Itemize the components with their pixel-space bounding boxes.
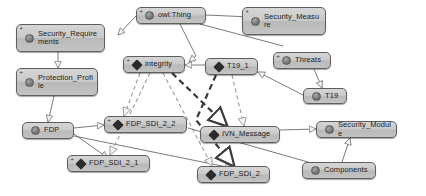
node-label: Components: [324, 166, 368, 175]
individual-diamond-icon: [209, 130, 218, 139]
node-label: IVN_Message: [222, 130, 270, 139]
node-fdp-sdi-2-2[interactable]: + FDP_SDI_2_2: [104, 116, 187, 133]
node-t19-1[interactable]: T19_1: [205, 58, 258, 75]
edge-components-to-securitymodule: [342, 138, 350, 162]
class-circle-icon: [251, 17, 260, 26]
class-circle-icon: [312, 92, 321, 101]
node-label: integrity: [145, 60, 172, 69]
class-circle-icon: [282, 56, 291, 65]
expander-icon[interactable]: +: [126, 58, 130, 63]
node-fdp[interactable]: FDP: [22, 122, 74, 139]
node-security-module[interactable]: Security_Module: [316, 121, 397, 138]
class-circle-icon: [31, 126, 40, 135]
node-label: T19: [325, 92, 338, 101]
node-label: FDP_SDI_2_1: [89, 159, 138, 168]
expander-icon[interactable]: +: [19, 26, 23, 31]
node-fdp-sdi-2-1[interactable]: + FDP_SDI_2_1: [67, 155, 150, 172]
node-label: Security_Requirements: [38, 30, 100, 47]
expander-icon[interactable]: +: [245, 9, 249, 14]
node-components[interactable]: Components: [302, 162, 376, 179]
node-protection-profile[interactable]: + Protection_Profile: [16, 68, 98, 96]
edge-t191-to-fdpsdi2: [196, 75, 234, 166]
node-label: FDP_SDI_2_2: [126, 120, 175, 129]
edge-ivnmessage-to-securitymodule: [280, 129, 316, 130]
class-circle-icon: [311, 166, 320, 175]
node-label: Security_Measure: [264, 13, 321, 30]
expander-icon[interactable]: +: [276, 54, 280, 59]
node-fdp-sdi-2[interactable]: FDP_SDI_2: [197, 166, 270, 183]
class-circle-icon: [145, 11, 154, 20]
node-security-measure[interactable]: + Security_Measure: [242, 7, 326, 35]
node-label: FDP: [44, 126, 59, 135]
node-label: T19_1: [227, 62, 249, 71]
class-circle-icon: [325, 125, 334, 134]
class-circle-icon: [25, 34, 34, 43]
edge-threats-to-t19: [314, 69, 322, 88]
node-owl-thing[interactable]: + owl:Thing: [136, 7, 206, 24]
node-security-requirements[interactable]: + Security_Requirements: [16, 24, 105, 52]
expander-icon[interactable]: +: [107, 118, 111, 123]
node-label: FDP_SDI_2: [219, 170, 260, 179]
individual-diamond-icon: [132, 60, 141, 69]
node-integrity[interactable]: + integrity: [123, 56, 185, 73]
edge-integrity-to-fdpsdi21: [110, 73, 150, 155]
individual-diamond-icon: [206, 170, 215, 179]
edge-owlthing-to-securityrequirements: [118, 16, 136, 35]
expander-icon[interactable]: +: [70, 157, 74, 162]
node-label: owl:Thing: [158, 11, 191, 20]
edge-t19-to-t191: [258, 72, 303, 95]
edge-t191-to-ivnmessage: [232, 75, 244, 126]
edge-integrity-to-fdpsdi22: [124, 73, 140, 116]
diagram-canvas[interactable]: + owl:Thing + Security_Requirements + Se…: [0, 0, 426, 196]
node-label: Security_Module: [338, 121, 392, 138]
node-t19[interactable]: T19: [303, 88, 347, 104]
expander-icon[interactable]: +: [139, 9, 143, 14]
edge-fdp-to-fdpsdi22: [74, 125, 104, 128]
individual-diamond-icon: [76, 159, 85, 168]
class-circle-icon: [25, 78, 34, 87]
node-label: Threats: [295, 56, 321, 65]
node-label: Protection_Profile: [38, 74, 93, 91]
individual-diamond-icon: [113, 120, 122, 129]
node-threats[interactable]: + Threats: [273, 52, 331, 69]
node-ivn-message[interactable]: IVN_Message: [200, 126, 280, 143]
expander-icon[interactable]: +: [19, 70, 23, 75]
individual-diamond-icon: [214, 62, 223, 71]
edge-protectionprofile-to-fdp: [48, 96, 54, 122]
